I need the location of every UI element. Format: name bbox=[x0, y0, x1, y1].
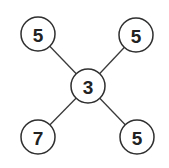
star-graph-diagram: 5 5 3 7 5 bbox=[0, 0, 169, 168]
node-top-left: 5 bbox=[21, 17, 55, 51]
node-label: 3 bbox=[83, 77, 94, 98]
node-label: 5 bbox=[131, 26, 142, 47]
node-label: 5 bbox=[33, 25, 44, 46]
node-label: 5 bbox=[132, 128, 143, 149]
node-bottom-left: 7 bbox=[21, 120, 55, 154]
node-top-right: 5 bbox=[119, 18, 153, 52]
nodes: 5 5 3 7 5 bbox=[21, 17, 154, 154]
node-label: 7 bbox=[33, 128, 44, 149]
node-center: 3 bbox=[71, 69, 105, 103]
node-bottom-right: 5 bbox=[120, 120, 154, 154]
